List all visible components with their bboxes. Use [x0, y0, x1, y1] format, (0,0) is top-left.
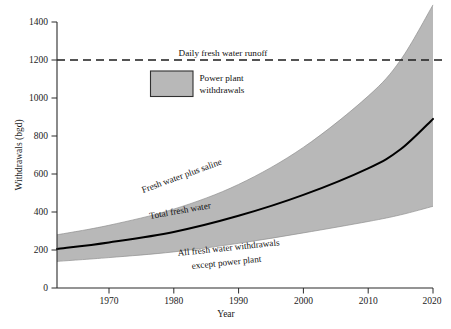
legend-power-plant-withdrawals: Power plant withdrawals [151, 71, 245, 97]
y-tick-label-0: 0 [43, 283, 48, 293]
x-tick-label-2000: 2000 [294, 296, 313, 306]
y-tick-label-600: 600 [34, 169, 49, 179]
y-axis: 0 200 400 600 800 1000 1200 1400 Withdra… [14, 17, 57, 293]
legend-label-line2: withdrawals [200, 85, 245, 95]
band-area-precise [57, 5, 433, 262]
x-tick-label-1970: 1970 [100, 296, 119, 306]
x-tick-label-1990: 1990 [229, 296, 248, 306]
annotation-daily-fresh-water-runoff: Daily fresh water runoff [179, 48, 269, 58]
y-tick-label-800: 800 [34, 131, 49, 141]
legend-label-line1: Power plant [200, 73, 245, 83]
annotation-lower-line2: except power plant [191, 254, 262, 271]
y-tick-label-400: 400 [34, 207, 49, 217]
y-tick-label-200: 200 [34, 245, 49, 255]
x-axis-title: Year [217, 309, 235, 319]
x-tick-label-2010: 2010 [359, 296, 378, 306]
y-tick-label-1400: 1400 [29, 17, 48, 27]
annotation-fresh-water-plus-saline: Fresh water plus saline [140, 157, 223, 195]
y-tick-label-1200: 1200 [29, 55, 48, 65]
chart-canvas: 0 200 400 600 800 1000 1200 1400 Withdra… [0, 0, 451, 329]
band-precise [57, 5, 433, 262]
y-tick-label-1000: 1000 [29, 93, 48, 103]
x-tick-label-2020: 2020 [423, 296, 442, 306]
chart-figure: 0 200 400 600 800 1000 1200 1400 Withdra… [0, 0, 451, 329]
legend-swatch-power-plant [151, 71, 194, 97]
x-tick-label-1980: 1980 [164, 296, 183, 306]
y-axis-title: Withdrawals (bgd) [14, 119, 25, 190]
x-axis: 1970 1980 1990 2000 2010 2020 Year [57, 288, 442, 319]
